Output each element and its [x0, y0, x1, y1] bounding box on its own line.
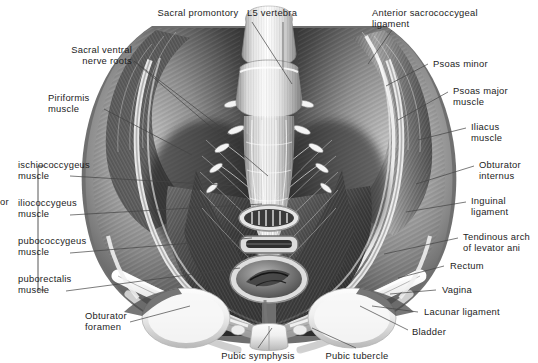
- label-anterior-sacrococcygeal-ligament: Anterior sacrococcygeal ligament: [372, 7, 478, 30]
- label-psoas-major-muscle: Psoas major muscle: [453, 85, 508, 108]
- bladder: [230, 255, 308, 303]
- label-vagina: Vagina: [442, 284, 472, 295]
- label-bladder: Bladder: [412, 326, 446, 337]
- label-pubococcygeus-muscle: pubococcygeus muscle: [18, 235, 86, 258]
- rectum: [239, 205, 299, 231]
- label-levator-ani-group-cropped: or: [0, 196, 9, 207]
- label-lacunar-ligament: Lacunar ligament: [424, 306, 500, 317]
- label-obturator-internus: Obturator internus: [479, 159, 521, 182]
- label-l5-vertebra: L5 vertebra: [247, 7, 297, 18]
- label-iliococcygeus-muscle: iliococcygeus muscle: [18, 197, 77, 220]
- label-sacral-promontory: Sacral promontory: [138, 7, 258, 18]
- pubic-tubercle-right: [293, 325, 307, 335]
- label-tendinous-arch-of-levator-ani: Tendinous arch of levator ani: [463, 231, 530, 254]
- label-puborectalis-muscle: puborectalis muscle: [18, 273, 72, 296]
- label-pubic-tubercle: Pubic tubercle: [304, 350, 410, 361]
- vagina: [240, 236, 298, 253]
- label-piriformis-muscle: Piriformis muscle: [48, 92, 90, 115]
- pubic-tubercle-left: [231, 325, 245, 335]
- label-psoas-minor: Psoas minor: [433, 58, 488, 69]
- label-iliacus-muscle: Iliacus muscle: [471, 121, 502, 144]
- label-sacral-ventral-nerve-roots: Sacral ventral nerve roots: [10, 44, 132, 67]
- label-ischiococcygeus-muscle: ischiococcygeus muscle: [18, 159, 90, 182]
- label-inguinal-ligament: Inguinal ligament: [471, 195, 508, 218]
- label-rectum: Rectum: [450, 260, 484, 271]
- figure-canvas: Sacral promontory L5 vertebra Anterior s…: [0, 0, 538, 363]
- label-obturator-foramen: Obturator foramen: [85, 310, 127, 333]
- label-pubic-symphysis: Pubic symphysis: [196, 350, 320, 361]
